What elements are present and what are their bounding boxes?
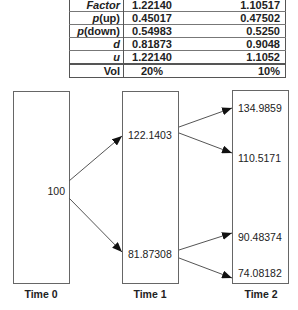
node-t1-up: 122.1403 <box>128 129 172 141</box>
binomial-tree: 100 122.1403 81.87308 134.9859 110.5171 … <box>0 0 298 310</box>
node-t2-ud: 110.5171 <box>238 152 281 164</box>
arrow-t1_down-to-t2_du <box>179 233 232 250</box>
arrow-t1_up-to-t2_uu <box>179 108 232 127</box>
arrow-t0-to-t1_down <box>69 198 122 252</box>
arrow-t1_up-to-t2_ud <box>179 133 232 153</box>
time-1-label: Time 1 <box>133 288 166 300</box>
time-0-label: Time 0 <box>24 288 57 300</box>
node-t2-uu: 134.9859 <box>238 102 282 114</box>
node-t2-du: 90.48374 <box>238 231 282 243</box>
arrow-t0-to-t1_up <box>69 136 122 181</box>
time-2-label: Time 2 <box>244 288 277 300</box>
node-t2-dd: 74.08182 <box>238 267 282 279</box>
node-t0: 100 <box>47 185 65 197</box>
node-t1-down: 81.87308 <box>128 248 172 260</box>
time-2-box <box>233 91 289 284</box>
arrow-t1_down-to-t2_dd <box>179 258 232 278</box>
